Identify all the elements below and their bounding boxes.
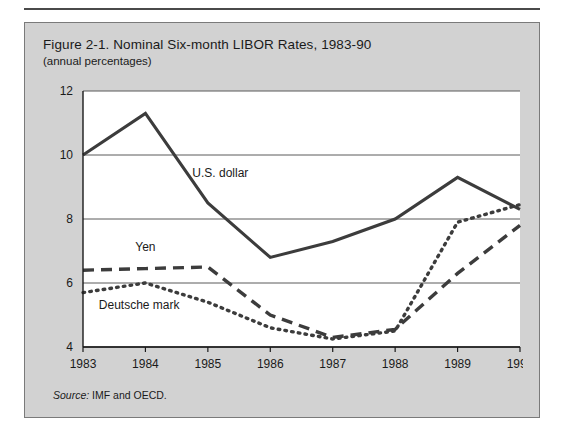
- figure-title: Figure 2-1. Nominal Six-month LIBOR Rate…: [43, 37, 371, 52]
- figure-panel: Figure 2-1. Nominal Six-month LIBOR Rate…: [24, 22, 540, 418]
- x-tick-label-1987: 1987: [319, 357, 346, 371]
- figure-subtitle: (annual percentages): [43, 55, 152, 67]
- source-note: Source: IMF and OECD.: [53, 389, 167, 401]
- chart-plot-area: 4681012 19831984198519861987198819891990…: [43, 85, 523, 375]
- x-tick-label-1988: 1988: [382, 357, 409, 371]
- x-tick-label-1983: 1983: [70, 357, 97, 371]
- x-tick-label-1985: 1985: [195, 357, 222, 371]
- y-tick-label-10: 10: [60, 148, 74, 162]
- x-tick-label-1990: 1990: [507, 357, 523, 371]
- y-tick-label-8: 8: [66, 212, 73, 226]
- x-tick-label-1984: 1984: [132, 357, 159, 371]
- x-axis-ticks-group: 19831984198519861987198819891990: [70, 347, 523, 371]
- top-divider-rule: [24, 8, 540, 10]
- source-text: IMF and OECD.: [89, 389, 167, 401]
- figure-page: Figure 2-1. Nominal Six-month LIBOR Rate…: [0, 0, 564, 435]
- x-tick-label-1986: 1986: [257, 357, 284, 371]
- source-label: Source:: [53, 389, 89, 401]
- series-label-u-s-dollar: U.S. dollar: [192, 166, 248, 180]
- y-tick-label-12: 12: [60, 85, 74, 98]
- y-tick-label-6: 6: [66, 276, 73, 290]
- line-chart: 4681012 19831984198519861987198819891990…: [43, 85, 523, 375]
- y-axis-ticks-group: 4681012: [60, 85, 74, 354]
- series-label-yen: Yen: [135, 240, 155, 254]
- series-label-deutsche-mark: Deutsche mark: [99, 298, 181, 312]
- y-tick-label-4: 4: [66, 340, 73, 354]
- x-tick-label-1989: 1989: [444, 357, 471, 371]
